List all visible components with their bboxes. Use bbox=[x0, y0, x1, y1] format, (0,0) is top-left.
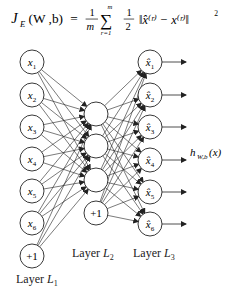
input-node-5: x5 bbox=[20, 179, 44, 203]
svg-text:h: h bbox=[190, 146, 196, 158]
output-arrows bbox=[162, 62, 186, 224]
hidden-node-4: +1 bbox=[84, 201, 108, 225]
svg-text:+1: +1 bbox=[90, 207, 102, 219]
output-function-label: h W,b (x) bbox=[190, 146, 222, 161]
hidden-node-2 bbox=[84, 134, 108, 158]
svg-text:+1: +1 bbox=[26, 250, 38, 262]
output-node-2: x̂2 bbox=[138, 83, 162, 107]
hidden-node-1 bbox=[84, 102, 108, 126]
hidden-node-3 bbox=[84, 168, 108, 192]
output-node-1: x̂1 bbox=[138, 50, 162, 74]
output-node-4: x̂4 bbox=[138, 148, 162, 172]
input-node-1: x1 bbox=[20, 50, 44, 74]
input-node-6: x6 bbox=[20, 211, 44, 235]
output-node-5: x̂5 bbox=[138, 180, 162, 204]
input-node-4: x4 bbox=[20, 147, 44, 171]
input-node-7: +1 bbox=[20, 244, 44, 268]
hidden-layer-label: Layer L2 bbox=[72, 246, 114, 262]
output-node-3: x̂3 bbox=[138, 115, 162, 139]
input-node-3: x3 bbox=[20, 115, 44, 139]
svg-text:W,b: W,b bbox=[197, 153, 208, 161]
input-layer-label: Layer L1 bbox=[16, 272, 58, 288]
input-node-2: x2 bbox=[20, 83, 44, 107]
autoencoder-network: x1x2x3x4x5x6+1+1x̂1x̂2x̂3x̂4x̂5x̂6 h W,b… bbox=[0, 0, 235, 293]
svg-text:(x): (x) bbox=[209, 146, 222, 159]
output-layer-label: Layer L3 bbox=[133, 246, 175, 262]
output-node-6: x̂6 bbox=[138, 212, 162, 236]
